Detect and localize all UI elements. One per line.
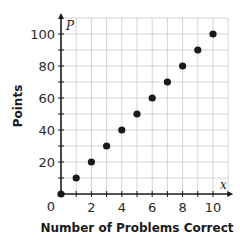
x-tick-label: 6: [148, 200, 156, 215]
data-point: [149, 94, 156, 101]
data-point: [164, 78, 171, 85]
data-point: [118, 126, 125, 133]
y-tick-label: 40: [38, 123, 55, 138]
scatter-chart: 24681020406080100 Number of Problems Cor…: [0, 0, 240, 241]
data-point: [209, 30, 216, 37]
y-axis-title: Points: [11, 85, 25, 128]
y-tick-label: 20: [38, 155, 55, 170]
data-point: [194, 46, 201, 53]
y-tick-label: 60: [38, 91, 55, 106]
x-axis-arrow-icon: [227, 191, 233, 197]
grid-lines: [61, 18, 228, 194]
x-axis-title: Number of Problems Correct: [40, 221, 233, 235]
data-point: [88, 158, 95, 165]
axes: [58, 13, 233, 197]
tick-labels: 24681020406080100: [30, 27, 221, 215]
y-tick-label: 80: [38, 59, 55, 74]
y-variable-label: P: [65, 19, 75, 33]
data-point: [73, 174, 80, 181]
x-tick-label: 4: [118, 200, 126, 215]
x-tick-label: 8: [178, 200, 186, 215]
y-axis-arrow-icon: [58, 13, 64, 19]
data-point: [103, 142, 110, 149]
data-point: [133, 110, 140, 117]
data-point: [179, 62, 186, 69]
x-tick-label: 10: [205, 200, 222, 215]
x-tick-label: 2: [87, 200, 95, 215]
origin-label: 0: [47, 199, 55, 214]
x-variable-label: x: [220, 178, 227, 192]
y-tick-label: 100: [30, 27, 55, 42]
data-point: [57, 190, 64, 197]
